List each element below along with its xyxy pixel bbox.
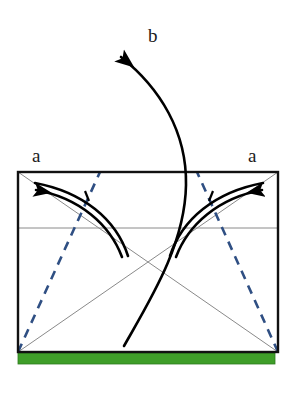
label-a-right: a <box>248 146 256 165</box>
curved-arrow-b <box>121 57 186 346</box>
diagram-canvas <box>0 0 295 397</box>
label-a-left: a <box>32 146 40 165</box>
curved-arrow-right-tick <box>209 191 213 201</box>
diagram-root: a a b <box>0 0 295 397</box>
green-ground-bar <box>18 353 275 364</box>
label-b: b <box>148 26 158 45</box>
